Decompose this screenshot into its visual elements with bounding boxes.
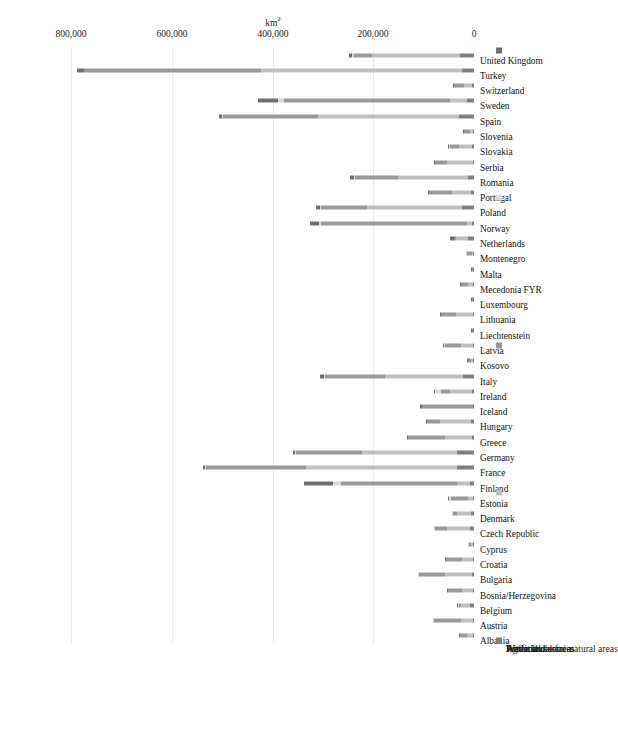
- category-label: Mecedonia FYR: [480, 284, 542, 294]
- bar-segment: [372, 53, 460, 57]
- bar-segment: [223, 114, 319, 118]
- category-label: Cyprus: [480, 544, 507, 554]
- bar-segment: [429, 190, 452, 194]
- bar-segment: [435, 160, 447, 164]
- value-tick-label: 400,000: [257, 28, 288, 38]
- stacked-bar: [420, 404, 474, 408]
- bar-segment: [450, 99, 467, 103]
- bar-segment: [462, 588, 473, 592]
- legend-item[interactable]: Artificial surfaces: [496, 637, 502, 643]
- stacked-bar: [304, 481, 474, 485]
- bar-segment: [462, 205, 474, 209]
- bar-segment: [471, 511, 474, 515]
- bar-segment: [473, 588, 474, 592]
- bar-segment: [427, 419, 440, 423]
- category-label: Bosnia/Herzegovina: [480, 590, 556, 600]
- bar-segment: [451, 496, 467, 500]
- bar-segment: [468, 175, 474, 179]
- stacked-bar: [293, 450, 474, 454]
- legend-item[interactable]: Wetlands: [496, 195, 502, 201]
- bar-segment: [341, 481, 457, 485]
- bar-segment: [473, 297, 474, 301]
- legend-item[interactable]: Forest and semi-natural areas: [496, 342, 502, 348]
- bar-segment: [318, 114, 459, 118]
- stacked-bar: [320, 374, 474, 378]
- stacked-bar: [468, 542, 474, 546]
- stacked-bar: [434, 389, 474, 393]
- bar-segment: [296, 450, 361, 454]
- category-label: Montenegro: [480, 253, 525, 263]
- bar-segment: [450, 389, 473, 393]
- bar-segment: [454, 83, 464, 87]
- bar-segment: [447, 160, 472, 164]
- bar-segment: [362, 450, 458, 454]
- legend-swatch-icon: [496, 637, 502, 643]
- bar-segment: [472, 221, 474, 225]
- category-label: Italy: [480, 376, 497, 386]
- stacked-bar: [350, 175, 474, 179]
- bar-segment: [473, 328, 474, 332]
- category-label: Netherlands: [480, 238, 525, 248]
- legend-swatch-icon: [496, 490, 502, 496]
- category-label: Austria: [480, 620, 507, 630]
- value-tick-label: 200,000: [358, 28, 389, 38]
- bar-segment: [461, 603, 470, 607]
- stacked-bar: [310, 221, 474, 225]
- legend-label: Water bodies: [506, 643, 556, 653]
- bar-segment: [473, 618, 474, 622]
- stacked-bar: [443, 343, 474, 347]
- bar-segment: [434, 618, 461, 622]
- bar-segment: [354, 53, 372, 57]
- bar-segment: [450, 144, 459, 148]
- legend-item[interactable]: Agricultural areas: [496, 490, 502, 496]
- stacked-bar: [349, 53, 474, 57]
- category-label: United Kingdom: [480, 55, 543, 65]
- bar-segment: [261, 68, 462, 72]
- bar-segment: [463, 374, 474, 378]
- bar-segment: [472, 435, 474, 439]
- stacked-bar: [450, 236, 474, 240]
- bar-segment: [422, 404, 472, 408]
- bar-segment: [471, 419, 474, 423]
- bar-segment: [473, 312, 474, 316]
- stacked-bar: [77, 68, 474, 72]
- category-label: Greece: [480, 437, 506, 447]
- stacked-bar: [447, 588, 474, 592]
- category-label: Sweden: [480, 101, 509, 111]
- stacked-bar: [316, 205, 474, 209]
- bar-segment: [473, 160, 475, 164]
- bar-segment: [206, 465, 307, 469]
- bar-segment: [460, 633, 467, 637]
- bar-segment: [462, 557, 473, 561]
- bar-segment: [473, 404, 474, 408]
- bar-segment: [464, 83, 472, 87]
- category-label: Turkey: [480, 70, 507, 80]
- bar-segment: [459, 144, 472, 148]
- bar-segment: [472, 572, 474, 576]
- bar-segment: [468, 236, 474, 240]
- stacked-bar: [418, 572, 474, 576]
- legend-swatch-icon: [496, 195, 502, 201]
- bar-segment: [461, 343, 473, 347]
- bar-segment: [462, 68, 474, 72]
- gridline: [373, 47, 374, 643]
- bar-segment: [472, 83, 474, 87]
- bar-segment: [471, 190, 474, 194]
- bar-segment: [473, 633, 474, 637]
- bar-segment: [310, 221, 319, 225]
- category-label: Kosovo: [480, 360, 509, 370]
- bar-segment: [470, 526, 474, 530]
- legend-item[interactable]: Water bodies: [496, 47, 502, 53]
- legend-swatch-icon: [496, 342, 502, 348]
- bar-segment: [459, 114, 474, 118]
- stacked-bar: [457, 603, 474, 607]
- bar-segment: [470, 603, 474, 607]
- bar-segment: [456, 312, 473, 316]
- bar-segment: [473, 251, 474, 255]
- category-label: Czech Republic: [480, 528, 539, 538]
- bar-segment: [440, 419, 471, 423]
- value-tick-label: 600,000: [156, 28, 187, 38]
- category-label: Luxembourg: [480, 299, 528, 309]
- stacked-bar: [452, 511, 474, 515]
- bar-segment: [457, 450, 474, 454]
